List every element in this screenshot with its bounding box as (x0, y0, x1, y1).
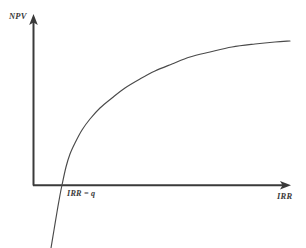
npv-curve-group (51, 41, 290, 248)
npv-curve (51, 41, 290, 248)
axes-group (29, 14, 291, 189)
npv-irr-figure: p g p p y NPV IRR IRR = q (0, 0, 306, 248)
plot-canvas (0, 0, 306, 248)
y-axis-label: NPV (9, 12, 27, 21)
x-axis-label: IRR (277, 192, 292, 201)
intercept-annotation-label: IRR = q (67, 190, 95, 198)
